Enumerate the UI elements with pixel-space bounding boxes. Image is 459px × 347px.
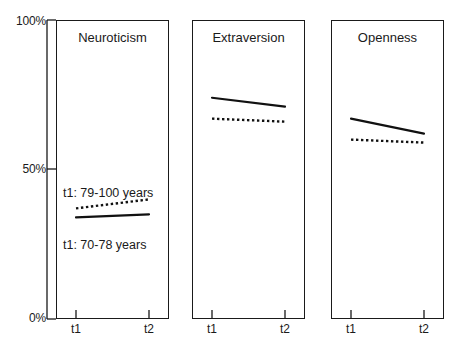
annotation-neuroticism-older: t1: 79-100 years <box>63 186 153 200</box>
panel-title-neuroticism: Neuroticism <box>57 30 168 45</box>
panel-neuroticism: Neuroticism t1: 79-100 years t1: 70-78 y… <box>56 20 169 319</box>
y-axis-label-100: 100% <box>2 14 46 28</box>
panel-extraversion: Extraversion <box>192 20 305 319</box>
xtick-openness-t1: t1 <box>346 322 356 336</box>
annotation-neuroticism-younger: t1: 70-78 years <box>63 238 146 252</box>
figure-personality-trait-panels: 100% 50% 0% Neuroticism t1: 79-100 years… <box>0 0 459 347</box>
xtick-neuroticism-t2: t2 <box>144 322 154 336</box>
y-axis-spine-group <box>47 20 56 319</box>
xtick-neuroticism-t1: t1 <box>71 322 81 336</box>
xtick-extraversion-t2: t2 <box>280 322 290 336</box>
panel-title-openness: Openness <box>332 30 443 45</box>
y-axis-label-50: 50% <box>2 162 46 176</box>
xtick-openness-t2: t2 <box>419 322 429 336</box>
y-axis-label-0: 0% <box>2 311 46 325</box>
xtick-extraversion-t1: t1 <box>207 322 217 336</box>
panel-title-extraversion: Extraversion <box>193 30 304 45</box>
panel-openness: Openness <box>331 20 444 319</box>
